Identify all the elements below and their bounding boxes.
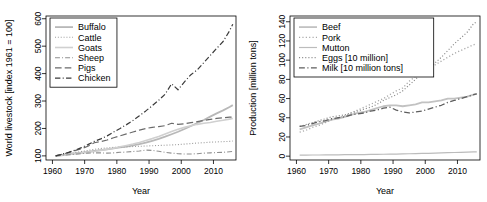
chart-svg-world-livestock: 196019701980199020002010Year100200300400… xyxy=(0,0,243,202)
chart-panel-production: 196019701980199020002010Year020406080100… xyxy=(244,0,487,202)
y-tick-label: 300 xyxy=(33,94,43,108)
legend-label: Cattle xyxy=(78,33,102,43)
x-tick-label: 2010 xyxy=(204,166,223,176)
series-line-buffalo xyxy=(56,105,233,156)
x-tick-label: 1960 xyxy=(287,166,306,176)
legend: BuffaloCattleGoatsSheepPigsChicken xyxy=(50,18,117,87)
legend-label: Chicken xyxy=(78,73,111,83)
y-tick-label: 40 xyxy=(277,113,287,123)
legend-label: Pigs xyxy=(78,63,96,73)
y-axis-title: Production [million tons] xyxy=(248,40,258,136)
legend-label: Mutton xyxy=(322,43,350,53)
y-tick-label: 500 xyxy=(33,39,43,53)
y-tick-label: 100 xyxy=(33,149,43,163)
x-tick-label: 1980 xyxy=(107,166,126,176)
legend-label: Milk [10 million tons] xyxy=(322,63,403,73)
y-tick-label: 140 xyxy=(277,14,287,28)
x-axis: 196019701980199020002010 xyxy=(287,160,467,176)
legend-label: Eggs [10 million] xyxy=(322,53,388,63)
x-axis-title: Year xyxy=(376,186,394,196)
x-tick-label: 1990 xyxy=(384,166,403,176)
x-tick-label: 2010 xyxy=(448,166,467,176)
legend-label: Goats xyxy=(78,43,103,53)
x-tick-label: 2000 xyxy=(172,166,191,176)
legend-label: Buffalo xyxy=(78,22,106,32)
series-line-mutton xyxy=(300,152,477,155)
legend-label: Sheep xyxy=(78,53,104,63)
y-axis-title: World livestock [index 1961 = 100] xyxy=(4,19,14,156)
legend-label: Beef xyxy=(322,22,341,32)
x-axis-title: Year xyxy=(132,186,150,196)
y-tick-label: 100 xyxy=(277,53,287,67)
y-tick-label: 400 xyxy=(33,66,43,80)
x-tick-label: 2000 xyxy=(416,166,435,176)
y-axis: 020406080100120140 xyxy=(277,14,290,158)
figure-container: 196019701980199020002010Year100200300400… xyxy=(0,0,487,202)
y-tick-label: 20 xyxy=(277,132,287,142)
x-tick-label: 1980 xyxy=(351,166,370,176)
y-tick-label: 60 xyxy=(277,94,287,104)
series-line-beef xyxy=(300,94,477,130)
x-tick-label: 1960 xyxy=(43,166,62,176)
legend: BeefPorkMuttonEggs [10 million]Milk [10 … xyxy=(294,18,434,77)
y-tick-label: 0 xyxy=(277,154,287,159)
chart-panel-world-livestock: 196019701980199020002010Year100200300400… xyxy=(0,0,243,202)
y-tick-label: 600 xyxy=(33,11,43,25)
chart-svg-production: 196019701980199020002010Year020406080100… xyxy=(244,0,487,202)
legend-label: Pork xyxy=(322,33,341,43)
x-axis: 196019701980199020002010 xyxy=(43,160,223,176)
x-tick-label: 1970 xyxy=(319,166,338,176)
x-tick-label: 1990 xyxy=(140,166,159,176)
x-tick-label: 1970 xyxy=(75,166,94,176)
y-tick-label: 120 xyxy=(277,34,287,48)
y-axis: 100200300400500600 xyxy=(33,11,46,163)
y-tick-label: 200 xyxy=(33,121,43,135)
y-tick-label: 80 xyxy=(277,74,287,84)
